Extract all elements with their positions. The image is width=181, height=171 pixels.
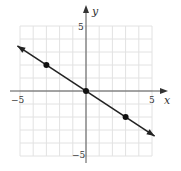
x-min-label: −5: [11, 95, 25, 105]
x-axis-label: x: [164, 94, 171, 107]
y-max-label: 5: [78, 22, 84, 32]
y-min-label: −5: [72, 150, 86, 160]
y-axis-label: y: [91, 5, 99, 18]
data-point: [83, 88, 89, 94]
y-axis-arrow-icon: [83, 5, 89, 13]
x-max-label: 5: [149, 95, 155, 105]
data-point: [43, 62, 49, 68]
coordinate-plane: −5 5 5 −5 x y: [0, 0, 181, 171]
data-point: [123, 114, 129, 120]
